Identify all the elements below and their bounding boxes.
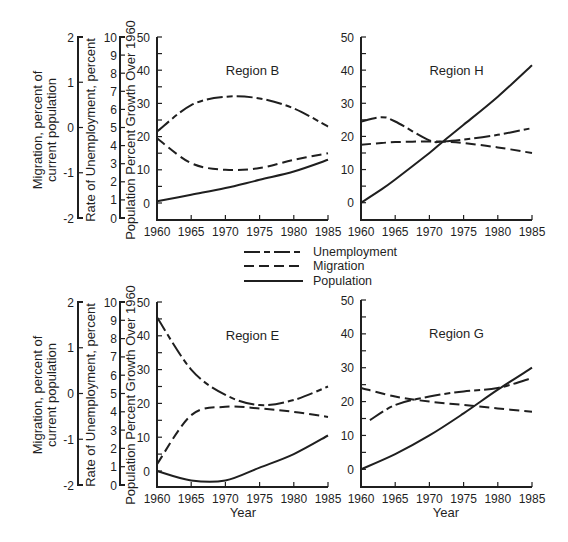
x-tick-label: 1985 [519,225,546,239]
migration-tick-label: -1 [63,166,74,180]
migration-tick-label: 2 [67,296,74,310]
x-tick-label: 1980 [280,225,307,239]
y-tick-label: 0 [143,465,150,479]
series-migration [361,141,532,153]
unemployment-tick-label: 9 [110,49,117,63]
x-tick-label: 1960 [144,492,171,506]
x-tick-label: 1960 [348,225,375,239]
chart-canvas: Migration, percent of current population… [0,0,568,542]
series-population [157,436,328,482]
migration-axis-label: Migration, percent of [30,70,45,189]
y-tick-label: 20 [341,395,355,409]
x-tick-label: 1970 [416,492,443,506]
migration-axis: 210-1-2 [63,31,83,226]
unemployment-tick-label: 1 [110,193,117,207]
x-tick-label: 1975 [450,225,477,239]
x-axis-label-left: Year [230,505,257,520]
y-tick-label: 0 [143,197,150,211]
x-tick-label: 1985 [315,225,342,239]
x-tick-label: 1975 [450,492,477,506]
y-tick-label: 50 [341,294,355,308]
x-tick-label: 1965 [178,225,205,239]
panel-title: Region H [429,63,483,78]
x-axis-label-right: Year [433,505,460,520]
unemployment-tick-label: 4 [110,139,117,153]
x-tick-label: 1985 [519,492,546,506]
unemployment-tick-label: 3 [110,424,117,438]
y-tick-label: 20 [137,397,151,411]
y-tick-label: 50 [137,296,151,310]
series-unemployment [157,96,328,131]
unemployment-axis: 109876543210 [104,296,125,493]
x-tick-label: 1970 [212,225,239,239]
unemployment-tick-label: 4 [110,405,117,419]
y-tick-label: 30 [341,361,355,375]
unemployment-tick-label: 1 [110,460,117,474]
x-tick-label: 1965 [382,492,409,506]
migration-axis-label: Migration, percent of [30,335,45,454]
unemployment-axis: 109876543210 [104,31,125,226]
x-tick-label: 1980 [484,492,511,506]
y-tick-label: 20 [137,130,151,144]
unemployment-tick-label: 5 [110,387,117,401]
population-axis-label: Population Percent Growth Over 1960 [123,285,138,505]
x-tick-label: 1965 [382,225,409,239]
migration-tick-label: 2 [67,31,74,45]
y-tick-label: 40 [137,64,151,78]
y-tick-label: 50 [341,31,355,45]
unemployment-tick-label: 10 [104,31,118,45]
unemployment-tick-label: 0 [110,479,117,493]
migration-tick-label: 0 [67,121,74,135]
unemployment-tick-label: 5 [110,121,117,135]
migration-tick-label: -2 [63,479,74,493]
panel-region-g: 01020304050196019651970197519801985Regio… [341,294,546,507]
migration-axis-label-line2: current population [44,343,59,447]
x-tick-label: 1980 [280,492,307,506]
legend-label-unemployment: Unemployment [313,245,398,259]
y-tick-label: 30 [137,97,151,111]
migration-tick-label: 0 [67,387,74,401]
unemployment-tick-label: 9 [110,314,117,328]
x-tick-label: 1985 [315,492,342,506]
legend-label-population: Population [313,274,372,288]
x-tick-label: 1975 [246,225,273,239]
y-tick-label: 10 [341,163,355,177]
unemployment-tick-label: 7 [110,85,117,99]
unemployment-tick-label: 0 [110,212,117,226]
unemployment-tick-label: 8 [110,67,117,81]
panel-region-b: 01020304050196019651970197519801985Regio… [137,31,342,240]
migration-tick-label: -2 [63,212,74,226]
migration-tick-label: 1 [67,76,74,90]
x-tick-label: 1965 [178,492,205,506]
series-population [157,160,328,202]
y-tick-label: 50 [137,31,151,45]
migration-axis-label-line2: current population [44,78,59,182]
y-tick-label: 10 [137,163,151,177]
panel-region-e: 01020304050196019651970197519801985Regio… [137,296,342,507]
panel-title: Region E [226,328,280,343]
unemployment-axis-label: Rate of Unemployment, percent [83,303,98,487]
y-tick-label: 30 [341,97,355,111]
unemployment-tick-label: 10 [104,296,118,310]
unemployment-axis-label: Rate of Unemployment, percent [83,38,98,222]
legend: Unemployment Migration Population [244,245,398,288]
migration-tick-label: -1 [63,433,74,447]
series-population [361,368,532,470]
x-tick-label: 1980 [484,225,511,239]
migration-axis: 210-1-2 [63,296,83,493]
x-tick-label: 1960 [348,492,375,506]
panel-region-h: 01020304050196019651970197519801985Regio… [341,31,546,240]
unemployment-tick-label: 8 [110,332,117,346]
figure: Migration, percent of current population… [0,0,568,542]
x-tick-label: 1970 [212,492,239,506]
unemployment-tick-label: 6 [110,369,117,383]
left-axes-top: Migration, percent of current population… [30,20,138,240]
unemployment-tick-label: 7 [110,350,117,364]
y-tick-label: 40 [341,327,355,341]
series-migration [157,138,328,170]
legend-label-migration: Migration [313,259,364,273]
y-tick-label: 40 [137,329,151,343]
unemployment-tick-label: 6 [110,103,117,117]
series-migration [157,406,328,464]
unemployment-tick-label: 3 [110,157,117,171]
